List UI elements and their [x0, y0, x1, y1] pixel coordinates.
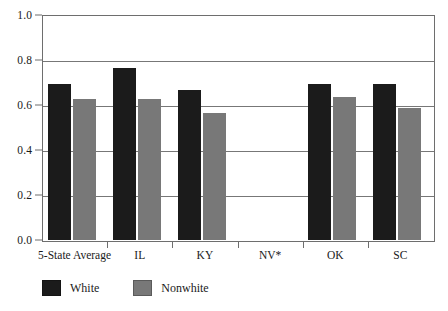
- bar-group: [304, 16, 369, 240]
- y-axis-tick-label: 0.2: [17, 189, 32, 201]
- bar-nonwhite-5-state-average: [73, 99, 96, 240]
- bar-group: [173, 16, 238, 240]
- bar-group: [239, 16, 304, 240]
- x-axis-tick-mark: [172, 241, 173, 248]
- x-axis-tick-label: 5-State Average: [38, 249, 111, 261]
- y-axis-tick-label: 0.6: [17, 99, 32, 111]
- bar-group: [369, 16, 434, 240]
- y-axis-tick-mark: [35, 240, 42, 241]
- x-axis-tick-mark: [107, 241, 108, 248]
- y-axis-tick-mark: [35, 150, 42, 151]
- y-axis-tick-mark: [35, 105, 42, 106]
- y-axis-tick-label: 0.8: [17, 54, 32, 66]
- legend-entry[interactable]: Nonwhite: [133, 280, 208, 296]
- y-axis-tick-label: 1.0: [17, 9, 32, 21]
- bar-chart: 0.00.20.40.60.81.0 5-State AverageILKYNV…: [0, 0, 448, 311]
- x-axis-tick-mark: [238, 241, 239, 248]
- x-axis-tick-label: NV*: [259, 249, 281, 261]
- x-axis-tick-label: IL: [134, 249, 145, 261]
- gray-square-swatch: [133, 280, 152, 296]
- bar-white-5-state-average: [48, 84, 71, 241]
- x-axis-tick-label: OK: [327, 249, 344, 261]
- y-axis-tick-mark: [35, 195, 42, 196]
- bar-white-sc: [373, 84, 396, 241]
- y-axis-tick-mark: [35, 60, 42, 61]
- bar-group: [108, 16, 173, 240]
- y-axis-tick-label: 0.0: [17, 234, 32, 246]
- x-axis: 5-State AverageILKYNV*OKSC: [42, 241, 435, 271]
- x-axis-tick-label: SC: [393, 249, 407, 261]
- bar-white-ky: [178, 90, 201, 240]
- legend-label: White: [70, 281, 99, 296]
- bar-nonwhite-sc: [398, 108, 421, 240]
- chart-legend: WhiteNonwhite: [42, 276, 243, 300]
- bar-group: [43, 16, 108, 240]
- legend-entry[interactable]: White: [42, 280, 99, 296]
- x-axis-tick-label: KY: [197, 249, 214, 261]
- legend-label: Nonwhite: [161, 281, 208, 296]
- bar-white-il: [113, 68, 136, 240]
- x-axis-tick-mark: [303, 241, 304, 248]
- y-axis-tick-label: 0.4: [17, 144, 32, 156]
- x-axis-tick-mark: [368, 241, 369, 248]
- bar-nonwhite-ky: [203, 113, 226, 240]
- y-axis: 0.00.20.40.60.81.0: [0, 0, 42, 256]
- bar-white-ok: [308, 84, 331, 241]
- y-axis-tick-mark: [35, 15, 42, 16]
- bars-layer: [43, 16, 433, 240]
- bar-nonwhite-ok: [333, 97, 356, 240]
- black-square-swatch: [42, 280, 61, 296]
- bar-nonwhite-il: [138, 99, 161, 240]
